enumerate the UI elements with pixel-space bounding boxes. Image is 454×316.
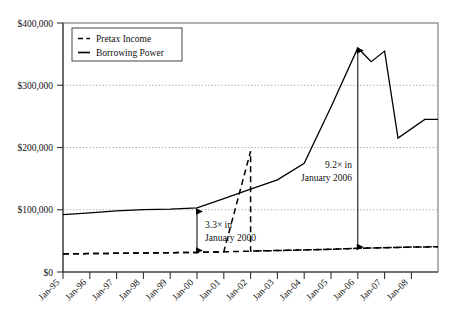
x-tick-label: Jan-01 (197, 277, 222, 302)
chart-legend: Pretax Income Borrowing Power (72, 28, 182, 61)
x-tick-label: Jan-05 (304, 277, 329, 302)
y-tick-label: $200,000 (17, 143, 53, 153)
x-tick-label: Jan-03 (251, 277, 276, 302)
x-tick-label: Jan-04 (278, 277, 303, 302)
x-tick-label: Jan-07 (358, 277, 383, 302)
annotation-ratio-2000: 3.3× in January 2000 (197, 212, 256, 251)
y-tick-label: $100,000 (17, 205, 53, 215)
x-tick-labels: Jan-95 Jan-96 Jan-97 Jan-98 Jan-99 Jan-0… (36, 277, 410, 302)
x-tick-label: Jan-96 (63, 277, 88, 302)
annotation-2000-line2: January 2000 (205, 233, 256, 243)
x-tick-label: Jan-06 (331, 277, 356, 302)
x-tick-label: Jan-08 (385, 277, 410, 302)
x-tick-label: Jan-95 (36, 277, 61, 302)
x-tick-label: Jan-98 (117, 277, 142, 302)
x-axis (63, 272, 438, 279)
x-tick-label: Jan-97 (90, 277, 115, 302)
x-tick-label: Jan-00 (170, 277, 195, 302)
y-tick-label: $400,000 (17, 19, 53, 29)
y-axis (57, 23, 63, 272)
x-tick-label: Jan-99 (144, 277, 169, 302)
annotation-ratio-2006: 9.2× in January 2006 (301, 51, 358, 248)
annotation-2000-line1: 3.3× in (205, 220, 232, 230)
legend-label-borrowing-power: Borrowing Power (96, 48, 165, 58)
y-tick-label: $300,000 (17, 81, 53, 91)
chart-container: $400,000 $300,000 $200,000 $100,000 $0 J… (0, 0, 454, 316)
y-tick-labels: $400,000 $300,000 $200,000 $100,000 $0 (17, 19, 53, 278)
y-tick-label: $0 (44, 268, 54, 278)
x-tick-label: Jan-02 (224, 277, 249, 302)
legend-label-pretax-income: Pretax Income (96, 34, 151, 44)
annotation-2006-line2: January 2006 (301, 173, 352, 183)
annotation-2006-line1: 9.2× in (325, 160, 352, 170)
